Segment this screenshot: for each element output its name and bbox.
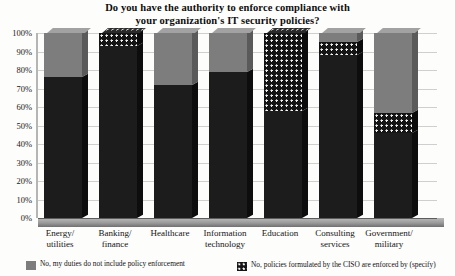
bar-segment-yes: [99, 46, 137, 218]
bar-segment-yes: [154, 85, 192, 218]
bar-stack: [209, 33, 247, 218]
bar-segment-side: [82, 74, 88, 218]
chart-root: Do you have the authority to enforce com…: [0, 0, 455, 276]
y-tick-20: 20%: [16, 177, 32, 186]
bar-segment-side: [302, 30, 308, 111]
chart-title-line-2: your organization's IT security policies…: [0, 15, 455, 28]
legend-item-no-duties: No, my duties do not include policy enfo…: [26, 260, 221, 270]
bar-segment-no_duties: [154, 33, 192, 85]
x-label-consulting-services: Consulting services: [304, 228, 366, 249]
bar-top-face: [267, 28, 311, 33]
bar-segment-side: [412, 130, 418, 218]
x-label-line-2: finance: [84, 239, 146, 250]
bar-segment-no_duties: [374, 33, 412, 113]
bar-segment-side: [247, 30, 253, 72]
bar-top-face: [102, 28, 146, 33]
bar-segment-side: [192, 82, 198, 218]
bar-information-technology: [209, 33, 247, 218]
bar-government-military: [374, 33, 412, 218]
bar-segment-side: [357, 52, 363, 218]
bar-top-face: [377, 28, 421, 33]
y-axis-labels: 0% 10% 20% 30% 40% 50% 60% 70% 80% 90% 1…: [0, 33, 36, 218]
bar-stack: [44, 33, 82, 218]
legend-item-ciso: No, policies formulated by the CISO are …: [237, 261, 455, 271]
y-tick-10: 10%: [16, 195, 32, 204]
chart-title-line-1: Do you have the authority to enforce com…: [105, 2, 350, 13]
bar-segment-yes: [374, 133, 412, 218]
x-label-line-2: services: [304, 239, 366, 250]
bar-segment-side: [412, 30, 418, 113]
x-label-line-1: Education: [249, 228, 311, 239]
bar-stack: [319, 33, 357, 218]
x-axis-labels: Energy/ utilities Banking/ finance Healt…: [38, 228, 446, 258]
y-tick-40: 40%: [16, 140, 32, 149]
bar-segment-yes: [319, 55, 357, 218]
bar-segment-no_duties: [209, 33, 247, 72]
chart-floor-edge: [38, 218, 437, 219]
bar-consulting-services: [319, 33, 357, 218]
bar-top-face: [47, 28, 91, 33]
bar-segment-yes: [264, 111, 302, 218]
y-tick-90: 90%: [16, 47, 32, 56]
x-label-line-1: Information: [194, 228, 256, 239]
x-label-healthcare: Healthcare: [139, 228, 201, 239]
x-label-energy-utilities: Energy/ utilities: [29, 228, 91, 249]
x-label-line-1: Consulting: [304, 228, 366, 239]
bar-stack: [99, 33, 137, 218]
bar-top-face: [322, 28, 366, 33]
bar-segment-side: [247, 69, 253, 218]
x-label-line-1: Energy/: [29, 228, 91, 239]
x-label-education: Education: [249, 228, 311, 239]
bar-segment-no_duties: [44, 33, 82, 77]
y-tick-0: 0%: [21, 214, 32, 223]
bar-top-face: [157, 28, 201, 33]
y-tick-80: 80%: [16, 66, 32, 75]
bar-segment-side: [137, 43, 143, 218]
bar-segment-ciso: [99, 33, 137, 46]
bar-stack: [374, 33, 412, 218]
bar-segment-no_duties: [319, 33, 357, 42]
bar-healthcare: [154, 33, 192, 218]
x-label-information-technology: Information technology: [194, 228, 256, 249]
x-label-banking-finance: Banking/ finance: [84, 228, 146, 249]
y-tick-100: 100%: [12, 29, 32, 38]
x-label-line-2: utilities: [29, 239, 91, 250]
bar-segment-ciso: [319, 42, 357, 55]
bar-top-face: [212, 28, 256, 33]
bar-segment-ciso: [264, 33, 302, 111]
x-label-line-1: Banking/: [84, 228, 146, 239]
legend-label-ciso: No, policies formulated by the CISO are …: [251, 261, 436, 269]
bar-segment-side: [192, 30, 198, 85]
bar-segment-side: [412, 109, 418, 133]
legend-swatch-dotted-icon: [237, 262, 247, 271]
bar-segment-yes: [44, 77, 82, 218]
x-label-government-military: Government/ military: [358, 228, 420, 249]
y-tick-30: 30%: [16, 158, 32, 167]
legend-swatch-gray-icon: [26, 261, 36, 270]
bar-stack: [264, 33, 302, 218]
x-label-line-2: military: [358, 239, 420, 250]
bar-segment-ciso: [374, 113, 412, 133]
x-label-line-2: technology: [194, 239, 256, 250]
chart-legend: No, my duties do not include policy enfo…: [0, 259, 455, 276]
bar-segment-side: [302, 108, 308, 218]
bar-banking-finance: [99, 33, 137, 218]
y-tick-60: 60%: [16, 103, 32, 112]
y-tick-50: 50%: [16, 121, 32, 130]
legend-label-no-duties: No, my duties do not include policy enfo…: [40, 260, 185, 268]
bar-segment-yes: [209, 72, 247, 218]
chart-title: Do you have the authority to enforce com…: [0, 2, 455, 27]
x-label-line-1: Healthcare: [139, 228, 201, 239]
bars-layer: [38, 33, 437, 218]
chart-floor: [38, 218, 444, 227]
bar-stack: [154, 33, 192, 218]
bar-education: [264, 33, 302, 218]
y-tick-70: 70%: [16, 84, 32, 93]
bar-energy-utilities: [44, 33, 82, 218]
bar-segment-side: [82, 30, 88, 78]
x-label-line-1: Government/: [358, 228, 420, 239]
